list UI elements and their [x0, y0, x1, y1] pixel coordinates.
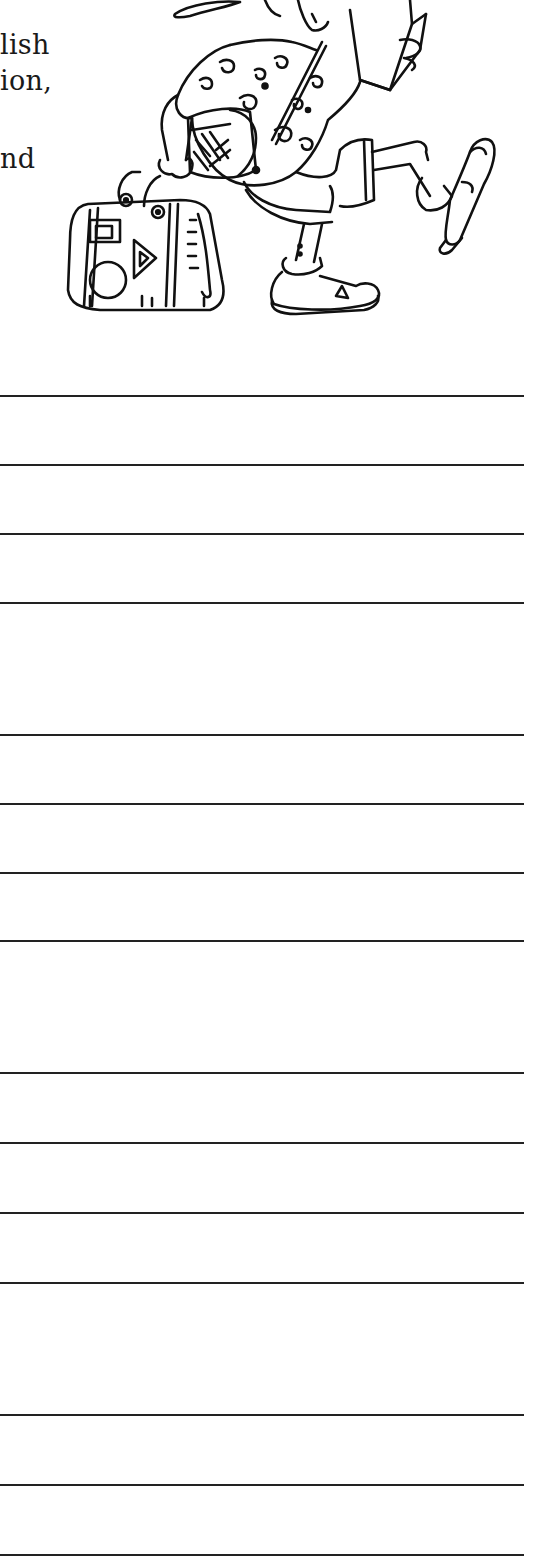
- leg-raised-icon: [372, 139, 494, 253]
- writing-line: [0, 1484, 524, 1486]
- writing-line: [0, 1212, 524, 1214]
- writing-line: [0, 872, 524, 874]
- text-fragment-ion: ion,: [0, 67, 52, 94]
- camera-case-icon: [188, 109, 259, 178]
- text-fragment-lish: lish: [0, 31, 50, 58]
- writing-line: [0, 1072, 524, 1074]
- head-icon: [265, 0, 328, 31]
- writing-line: [0, 464, 524, 466]
- book-icon: [350, 0, 426, 90]
- writing-line: [0, 395, 524, 397]
- writing-line: [0, 1282, 524, 1284]
- writing-line: [0, 734, 524, 736]
- writing-line: [0, 803, 524, 805]
- writing-line: [0, 602, 524, 604]
- writing-line: [0, 1142, 524, 1144]
- writing-line: [0, 1414, 524, 1416]
- writing-line: [0, 533, 524, 535]
- text-fragment-nd: nd: [0, 145, 35, 172]
- handbag-icon: [68, 172, 224, 310]
- tourist-illustration: [60, 0, 536, 330]
- writing-line: [0, 940, 524, 942]
- shorts-icon: [244, 139, 374, 224]
- writing-line: [0, 1554, 524, 1556]
- leg-standing-icon: [271, 224, 379, 314]
- hat-icon: [174, 2, 240, 18]
